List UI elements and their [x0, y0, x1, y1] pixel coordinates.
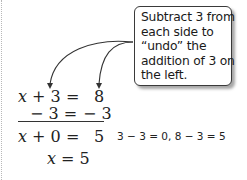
variable-x: x: [47, 149, 56, 168]
callout-line: the left.: [141, 68, 233, 83]
arithmetic-note: 3 − 3 = 0, 8 − 3 = 5: [117, 130, 226, 142]
solution-rest: = 5: [56, 149, 90, 168]
sum-divider-line: [18, 121, 104, 122]
callout-line: each side to: [141, 25, 233, 40]
arrow-to-left-3: [50, 41, 133, 84]
variable-x: x: [18, 87, 27, 106]
lhs-rest: + 0 =: [27, 127, 79, 146]
callout-line: addition of 3 on: [141, 54, 233, 69]
callout-line: Subtract 3 from: [141, 10, 233, 25]
equation-row-3-lhs: x + 0 =: [18, 127, 79, 146]
arrow-to-right-8: [99, 42, 133, 84]
equation-row-3-rhs: 5: [94, 127, 104, 146]
callout-text: Subtract 3 from each side to “undo” the …: [141, 10, 233, 83]
variable-x: x: [18, 127, 27, 146]
solution-row: x = 5: [47, 149, 90, 168]
callout-line: “undo” the: [141, 39, 233, 54]
callout-box: Subtract 3 from each side to “undo” the …: [134, 6, 232, 86]
